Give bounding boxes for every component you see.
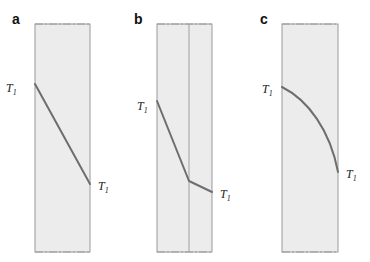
panel-c: c T1 T1: [260, 11, 357, 252]
panel-letter-c: c: [260, 11, 268, 27]
right-temperature-label-c: T1: [346, 167, 357, 183]
diagram-canvas: a T1 T1 b T1 T1 c T1 T1: [0, 0, 370, 262]
wall-b: [157, 24, 212, 252]
wall-c: [282, 24, 338, 252]
right-temperature-label-a: T1: [98, 179, 109, 195]
panel-b: b T1 T1: [134, 11, 231, 252]
wall-a: [35, 24, 90, 252]
right-temperature-label-b: T1: [220, 187, 231, 203]
left-temperature-label-c: T1: [262, 82, 273, 98]
panel-letter-b: b: [134, 11, 143, 27]
panel-letter-a: a: [12, 11, 20, 27]
left-temperature-label-b: T1: [137, 99, 148, 115]
left-temperature-label-a: T1: [6, 81, 17, 97]
panel-a: a T1 T1: [6, 11, 109, 252]
